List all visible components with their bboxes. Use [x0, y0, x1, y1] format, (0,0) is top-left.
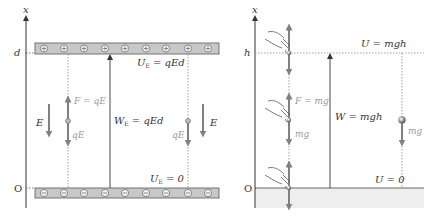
free-ball: mg	[399, 117, 423, 144]
potential-bottom-electric: UE = 0	[150, 173, 185, 185]
field-label-left: E	[35, 117, 44, 128]
force-up-label-gravity: F = mg	[294, 96, 329, 106]
force-down-label-gravity-left: mg	[295, 129, 310, 139]
hand-top	[265, 27, 291, 72]
right-origin-label: O	[244, 183, 252, 194]
left-d-label: d	[14, 47, 20, 58]
right-h-label: h	[244, 47, 250, 58]
right-panel: x h O W = mgh U = mgh U = 0 F = mg mg	[244, 4, 424, 208]
ground	[255, 188, 424, 208]
potential-top-gravity: U = mgh	[361, 38, 407, 49]
hand-icon	[265, 31, 290, 52]
test-charge-right	[186, 119, 191, 124]
force-down-label-electric-right: qE	[172, 130, 185, 140]
negative-plate	[35, 188, 219, 198]
right-axis-label: x	[252, 4, 258, 15]
test-charge-left	[66, 119, 71, 124]
hand-icon	[265, 100, 290, 121]
left-origin-label: O	[14, 183, 22, 194]
left-panel: x d O	[14, 4, 219, 208]
positive-plate	[35, 43, 219, 54]
field-label-right: E	[209, 117, 218, 128]
potential-bottom-gravity: U = 0	[375, 174, 405, 185]
force-down-label-electric-left: qE	[72, 130, 85, 140]
hand-icon	[265, 167, 290, 188]
hand-middle: F = mg mg	[265, 96, 329, 142]
diagram-canvas: x d O	[0, 0, 439, 223]
force-down-label-gravity-right: mg	[408, 126, 423, 136]
left-axis-label: x	[23, 4, 29, 15]
force-up-label-electric: F = qE	[73, 96, 106, 106]
potential-top-electric: UE = qEd	[137, 57, 185, 69]
work-label-electric: WE = qEd	[114, 115, 164, 127]
work-label-gravity: W = mgh	[335, 111, 382, 122]
